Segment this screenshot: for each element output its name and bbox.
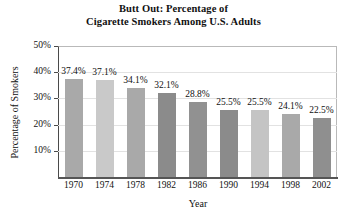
bar (282, 114, 300, 177)
chart-title-line-2: Cigarette Smokers Among U.S. Adults (0, 16, 347, 29)
bar (96, 80, 114, 177)
bar (127, 88, 145, 177)
bar (251, 110, 269, 177)
y-tick-label: 50% (11, 40, 51, 50)
y-tick-label: 20% (11, 119, 51, 129)
bar (65, 79, 83, 177)
bars-layer: 37.4%37.1%34.1%32.1%28.8%25.5%25.5%24.1%… (58, 46, 337, 177)
chart-title-line-1: Butt Out: Percentage of (0, 3, 347, 16)
y-tick-label: 10% (11, 145, 51, 155)
y-tick-label: 30% (11, 92, 51, 102)
chart-title: Butt Out: Percentage of Cigarette Smoker… (0, 3, 347, 28)
x-axis-title: Year (58, 198, 338, 209)
bar (189, 102, 207, 177)
x-tick-label: 2002 (302, 180, 342, 190)
bar (313, 118, 331, 177)
bar (158, 93, 176, 177)
bar-value-label: 22.5% (302, 105, 342, 115)
y-tick-label: 40% (11, 66, 51, 76)
bar-chart: Butt Out: Percentage of Cigarette Smoker… (0, 0, 347, 218)
x-axis-line (58, 177, 338, 179)
bar (220, 110, 238, 177)
